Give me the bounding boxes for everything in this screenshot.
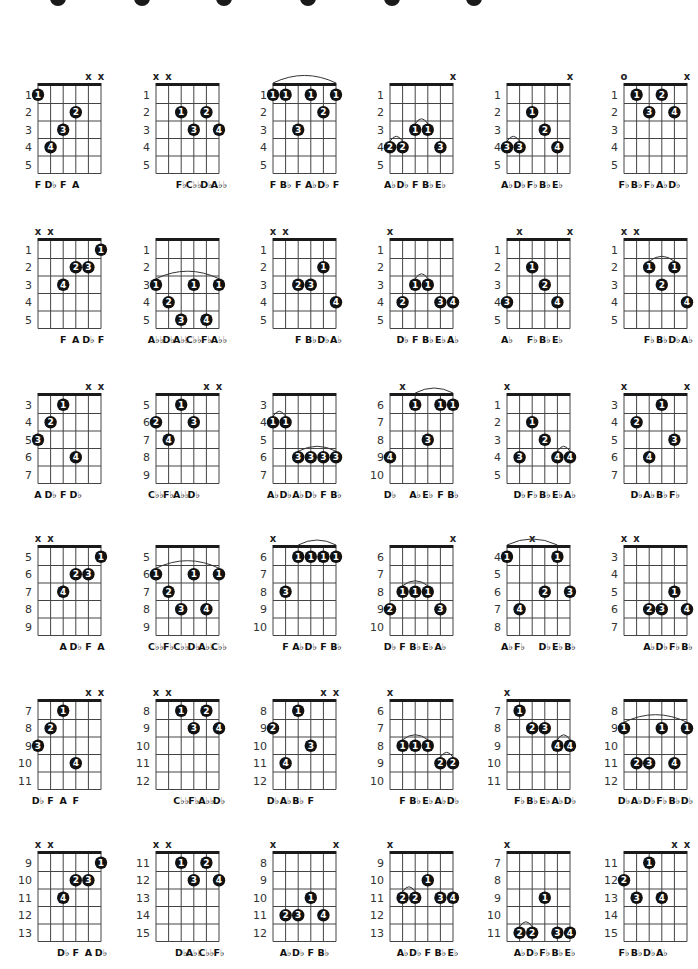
nut-bar (507, 545, 571, 548)
chord-grid: 678910x11113FA♭D♭FB♭ (235, 532, 353, 662)
fret-number: 4 (611, 416, 618, 429)
fret-number: 6 (611, 451, 618, 464)
muted-string-marker: x (98, 71, 105, 82)
svg-text:3: 3 (333, 452, 339, 462)
note-name: B♭ (422, 179, 434, 190)
chord-grid: 34567xx1234D♭A♭B♭F♭ (586, 380, 698, 510)
cropped-top-icon (300, 0, 316, 6)
muted-string-marker: x (671, 839, 678, 850)
fret-number: 1 (494, 244, 501, 257)
fret-number: 4 (25, 296, 32, 309)
fret-number: 12 (18, 909, 32, 922)
note-name: B♭ (435, 947, 447, 958)
chord-grid: 12345x11234D♭FB♭E♭A♭ (352, 225, 470, 355)
fret-number: 8 (143, 603, 150, 616)
finger-dot: 4 (564, 740, 576, 752)
svg-text:4: 4 (450, 893, 456, 903)
chord-diagram: 12345xx1234A♭F♭B♭E♭ (469, 225, 584, 350)
svg-text:4: 4 (282, 758, 288, 768)
note-name: F♭ (514, 641, 525, 652)
finger-dot: 3 (668, 434, 680, 446)
chord-grid: 7891011x12344F♭B♭E♭A♭D♭ (469, 686, 587, 816)
note-name: D♭ (513, 489, 525, 500)
note-name: A♭ (434, 641, 446, 652)
svg-text:2: 2 (295, 280, 301, 290)
svg-text:1: 1 (450, 400, 456, 410)
barre-arc (156, 561, 219, 569)
svg-text:2: 2 (203, 107, 209, 117)
svg-text:1: 1 (191, 569, 197, 579)
fret-number: 3 (494, 279, 501, 292)
note-name: A♭ (631, 795, 643, 806)
finger-dot: 1 (305, 892, 317, 904)
fret-number: 10 (253, 621, 267, 634)
fret-number: 2 (494, 106, 501, 119)
muted-string-marker: x (165, 839, 172, 850)
finger-dot: 1 (513, 705, 525, 717)
finger-dot: 4 (447, 892, 459, 904)
svg-text:4: 4 (60, 280, 66, 290)
finger-dot: 4 (564, 927, 576, 939)
fret-number: 4 (25, 416, 32, 429)
note-name: C♭♭ (186, 334, 202, 345)
chord-grid: 1112131415xx1234D♭A♭♭C♭♭F♭ (118, 838, 236, 968)
fret-number: 1 (260, 244, 267, 257)
note-name: B♭ (318, 947, 330, 958)
note-name: B♭ (280, 179, 292, 190)
nut-bar (507, 238, 571, 241)
note-name: D♭ (681, 795, 693, 806)
note-name: C♭♭ (211, 641, 227, 652)
fret-number: 7 (25, 586, 32, 599)
note-name: A♭ (280, 795, 292, 806)
chord-grid: 678910x11134D♭A♭E♭FB♭ (352, 380, 470, 510)
fret-number: 10 (487, 909, 501, 922)
finger-dot: 1 (447, 399, 459, 411)
fret-number: 11 (253, 757, 267, 770)
note-name: E♭ (552, 334, 563, 345)
note-name: F (308, 947, 315, 958)
note-name: C♭♭ (173, 795, 189, 806)
svg-text:1: 1 (191, 280, 197, 290)
fret-number: 2 (494, 416, 501, 429)
muted-string-marker: x (567, 71, 574, 82)
fret-number: 4 (260, 416, 267, 429)
finger-dot: 4 (70, 757, 82, 769)
finger-dot: 3 (643, 106, 655, 118)
svg-text:3: 3 (554, 928, 560, 938)
svg-text:2: 2 (646, 604, 652, 614)
fret-number: 8 (494, 621, 501, 634)
svg-text:2: 2 (320, 107, 326, 117)
svg-text:3: 3 (671, 435, 677, 445)
finger-dot: 3 (513, 451, 525, 463)
chord-grid: 7891011xx1234D♭FAF (0, 686, 118, 816)
note-name: E♭ (448, 947, 459, 958)
nut-bar (624, 83, 688, 86)
svg-text:1: 1 (554, 552, 560, 562)
svg-text:1: 1 (295, 552, 301, 562)
note-name: A♭ (434, 795, 446, 806)
note-name: D♭ (213, 795, 225, 806)
svg-text:3: 3 (516, 452, 522, 462)
muted-string-marker: x (270, 533, 277, 544)
fret-number: 8 (494, 874, 501, 887)
note-name: C♭♭ (148, 489, 164, 500)
chord-grid: 910111213xx1234D♭FAD♭ (0, 838, 118, 968)
chord-grid: 12345x12344D♭F♭B♭E♭A♭ (469, 380, 587, 510)
chord-grid: 678910x11123D♭FB♭E♭A♭ (352, 532, 470, 662)
note-name: F (320, 641, 327, 652)
note-name: F (60, 179, 67, 190)
chord-diagram: 12345x11223A♭D♭FB♭E♭ (352, 70, 467, 195)
svg-text:1: 1 (282, 417, 288, 427)
fret-number: 7 (143, 586, 150, 599)
finger-dot: 3 (188, 124, 200, 136)
muted-string-marker: x (47, 226, 54, 237)
chord-grid: 34567xx1234AD♭FD♭ (0, 380, 118, 510)
finger-dot: 3 (305, 740, 317, 752)
svg-text:3: 3 (191, 723, 197, 733)
fret-number: 3 (260, 399, 267, 412)
muted-string-marker: x (504, 687, 511, 698)
chord-diagram: 89101112xx1234D♭A♭B♭F (235, 686, 350, 811)
svg-text:3: 3 (191, 125, 197, 135)
muted-string-marker: x (684, 71, 691, 82)
svg-text:3: 3 (295, 125, 301, 135)
